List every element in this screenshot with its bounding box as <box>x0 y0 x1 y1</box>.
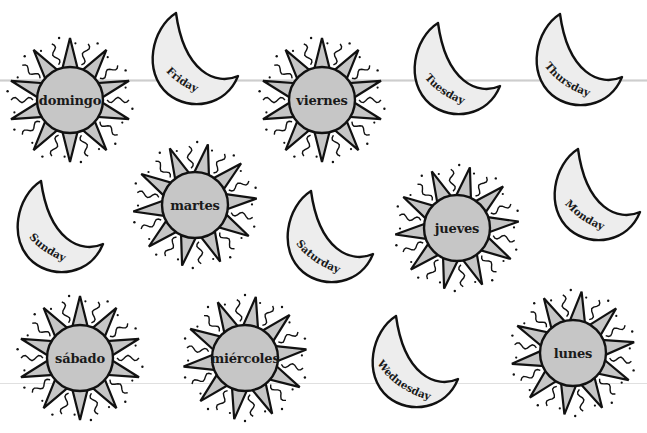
moon-card-thursday: Thursday <box>530 11 626 111</box>
crescent-moon-icon: Monday <box>548 146 644 246</box>
sun-card-miercoles: miércoles <box>177 290 313 426</box>
sun-label: sábado <box>12 290 148 426</box>
sun-card-domingo: domingo <box>2 32 138 168</box>
sun-card-lunes: lunes <box>505 285 641 421</box>
sun-label: miércoles <box>177 290 313 426</box>
sun-label: viernes <box>254 32 390 168</box>
crescent-moon-icon: Tuesday <box>408 20 504 120</box>
moon-card-tuesday: Tuesday <box>408 20 504 120</box>
moon-card-wednesday: Wednesday <box>366 313 462 413</box>
sun-card-sabado: sábado <box>12 290 148 426</box>
sun-label: martes <box>127 137 263 273</box>
sun-label: domingo <box>2 32 138 168</box>
sun-card-jueves: jueves <box>389 160 525 296</box>
sun-label: lunes <box>505 285 641 421</box>
sun-card-viernes: viernes <box>254 32 390 168</box>
moon-card-friday: Friday <box>146 10 242 110</box>
crescent-moon-icon: Thursday <box>530 11 626 111</box>
moon-card-monday: Monday <box>548 146 644 246</box>
sun-label: jueves <box>389 160 525 296</box>
sun-card-martes: martes <box>127 137 263 273</box>
moon-card-saturday: Saturday <box>281 188 377 288</box>
crescent-moon-icon: Friday <box>146 10 242 110</box>
moon-card-sunday: Sunday <box>11 178 107 278</box>
crescent-moon-icon: Saturday <box>281 188 377 288</box>
crescent-moon-icon: Sunday <box>11 178 107 278</box>
crescent-moon-icon: Wednesday <box>366 313 462 413</box>
